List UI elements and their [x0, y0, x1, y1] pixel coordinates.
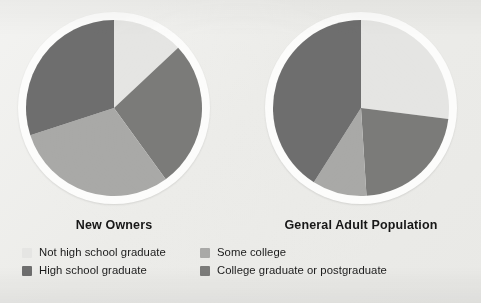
chart-title-new-owners: New Owners [18, 218, 210, 232]
legend: Not high school graduate Some college Hi… [22, 244, 462, 279]
legend-item-high-school-graduate: High school graduate [22, 262, 194, 279]
pie-chart-general-adult-population: General Adult Population [265, 12, 457, 204]
chart-title-general-adult-population: General Adult Population [257, 218, 465, 232]
legend-label: Not high school graduate [39, 246, 166, 259]
legend-label: Some college [217, 246, 286, 259]
pie-svg-left [18, 12, 210, 204]
legend-swatch-icon [200, 266, 210, 276]
pie-wrap-right [265, 12, 457, 204]
pie-chart-new-owners: New Owners [18, 12, 210, 204]
legend-swatch-icon [22, 248, 32, 258]
pie-slice [361, 20, 449, 119]
legend-item-some-college: Some college [200, 244, 462, 261]
legend-label: High school graduate [39, 264, 147, 277]
legend-swatch-icon [22, 266, 32, 276]
pie-wrap-left [18, 12, 210, 204]
pie-svg-right [265, 12, 457, 204]
plot-area: New Owners General Adult Population [0, 0, 481, 214]
legend-item-not-high-school-graduate: Not high school graduate [22, 244, 194, 261]
legend-label: College graduate or postgraduate [217, 264, 387, 277]
legend-item-college-graduate-or-postgraduate: College graduate or postgraduate [200, 262, 462, 279]
pie-slice [361, 108, 448, 196]
legend-swatch-icon [200, 248, 210, 258]
pie-chart-figure: New Owners General Adult Population Not … [0, 0, 481, 303]
